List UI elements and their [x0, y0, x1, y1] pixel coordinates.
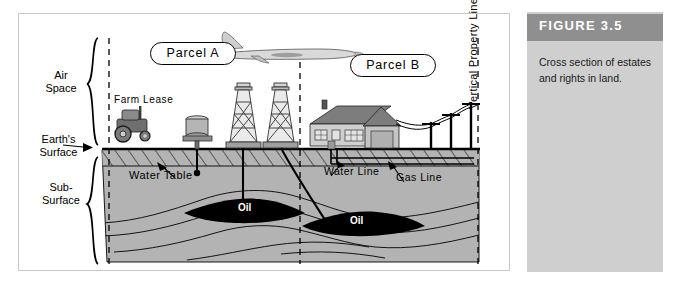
- farm-lease-label: Farm Lease: [114, 94, 173, 105]
- gas-line-label: Gas Line: [396, 171, 442, 183]
- zone-label-earths-surface: Earth's Surface: [27, 133, 90, 159]
- figure-caption-panel: FIGURE 3.5 Cross section of estates and …: [527, 12, 663, 272]
- water-table-label: Water Table: [129, 169, 193, 181]
- oil-label-parcel-b: Oil: [350, 215, 363, 226]
- tractor-icon: [115, 106, 150, 142]
- house-icon: [310, 100, 401, 149]
- zone-label-air-space: Air Space: [32, 69, 90, 95]
- vertical-property-lines-label: Vertical Property Lines: [467, 0, 479, 109]
- cross-section-illustration: [19, 14, 511, 272]
- water-line-label: Water Line: [324, 165, 379, 177]
- figure-caption-text: Cross section of estates and rights in l…: [539, 54, 655, 86]
- zone-label-sub-surface: Sub- Surface: [32, 181, 90, 207]
- parcel-b-badge: Parcel B: [350, 54, 436, 77]
- figure-container: Air Space Earth's Surface Sub- Surface P…: [0, 0, 678, 293]
- sub-surface-brace: [87, 157, 98, 264]
- subsurface-mass: [102, 150, 479, 262]
- parcel-a-badge: Parcel A: [150, 42, 236, 65]
- oil-label-parcel-a: Oil: [238, 202, 251, 213]
- utility-poles-icon: [396, 102, 480, 149]
- diagram-frame: Air Space Earth's Surface Sub- Surface P…: [18, 13, 510, 271]
- figure-number-label: FIGURE 3.5: [539, 18, 623, 33]
